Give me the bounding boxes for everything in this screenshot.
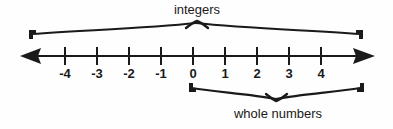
- whole-numbers-brace: [189, 83, 364, 101]
- left-arrowhead: [20, 48, 41, 64]
- tick-label: 1: [221, 66, 228, 81]
- whole-numbers-brace-left-arm: [192, 88, 276, 99]
- whole-numbers-label: whole numbers: [234, 106, 322, 121]
- tick-label: -2: [123, 66, 135, 81]
- integers-brace-peak: [186, 21, 208, 28]
- tick-label: 0: [189, 66, 196, 81]
- tick-label: 3: [285, 66, 292, 81]
- right-arrowhead: [353, 48, 375, 64]
- integers-label: integers: [174, 2, 220, 17]
- integers-brace-right-arm: [196, 23, 360, 34]
- whole-numbers-brace-right-arm: [276, 88, 360, 99]
- tick-label: -4: [59, 66, 71, 81]
- integers-brace-left-arm: [32, 23, 196, 34]
- tick-label: -3: [91, 66, 103, 81]
- number-line-graphic: [0, 0, 393, 129]
- integers-brace: [29, 21, 363, 39]
- tick-label: -1: [155, 66, 167, 81]
- number-line-figure: -4-3-2-101234 integers whole numbers: [0, 0, 393, 129]
- tick-label: 2: [253, 66, 260, 81]
- tick-label: 4: [317, 66, 324, 81]
- whole-numbers-brace-peak: [266, 94, 287, 101]
